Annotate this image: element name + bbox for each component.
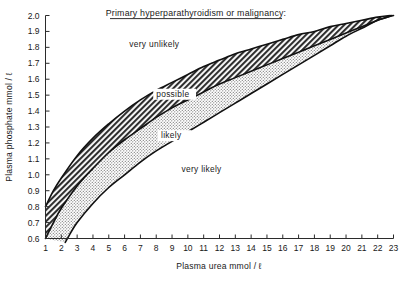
y-tick-label: 1.9 [28,26,40,36]
x-tick-label: 9 [170,243,175,253]
x-tick-label: 3 [75,243,80,253]
y-tick-label: 1.1 [28,154,40,164]
y-tick-label: 1.4 [28,106,40,116]
chart-title: Primary hyperparathyroidism or malignanc… [106,8,287,18]
zone-label-possible: possible [156,89,189,99]
x-tick-label: 18 [310,243,320,253]
x-tick-label: 2 [59,243,64,253]
y-tick-label: 1.5 [28,90,40,100]
y-tick-label: 1.6 [28,74,40,84]
x-tick-label: 14 [246,243,256,253]
x-tick-label: 20 [341,243,351,253]
x-tick-label: 7 [138,243,143,253]
x-tick-label: 13 [231,243,241,253]
nomogram-chart: 0.60.70.80.91.01.11.21.31.41.51.61.71.81… [0,0,407,281]
zone-label-very-likely: very likely [182,164,223,174]
y-tick-label: 0.7 [28,218,40,228]
y-tick-label: 1.2 [28,138,40,148]
y-tick-label: 0.8 [28,202,40,212]
y-tick-label: 1.3 [28,122,40,132]
x-tick-label: 8 [154,243,159,253]
x-tick-label: 19 [325,243,335,253]
x-tick-label: 16 [278,243,288,253]
x-tick-label: 17 [294,243,304,253]
y-tick-label: 1.7 [28,58,40,68]
zone-label-very-unlikely: very unlikely [129,39,179,49]
x-tick-label: 4 [91,243,96,253]
x-tick-label: 21 [357,243,367,253]
y-tick-label: 1.8 [28,42,40,52]
x-tick-label: 22 [373,243,383,253]
zone-label-likely: likely [161,130,182,140]
x-tick-label: 15 [262,243,272,253]
chart-canvas: 0.60.70.80.91.01.11.21.31.41.51.61.71.81… [0,0,407,281]
y-tick-label: 0.9 [28,186,40,196]
y-tick-label: 0.6 [28,234,40,244]
y-axis-title: Plasma phosphate mmol / ℓ [4,72,14,182]
x-tick-label: 1 [43,243,48,253]
x-tick-label: 10 [183,243,193,253]
x-tick-label: 11 [199,243,208,253]
x-tick-label: 5 [106,243,111,253]
x-tick-label: 12 [215,243,225,253]
x-tick-label: 6 [122,243,127,253]
x-axis-title: Plasma urea mmol / ℓ [176,261,262,271]
y-tick-label: 1.0 [28,170,40,180]
y-tick-label: 2.0 [28,11,40,21]
x-tick-label: 23 [389,243,399,253]
